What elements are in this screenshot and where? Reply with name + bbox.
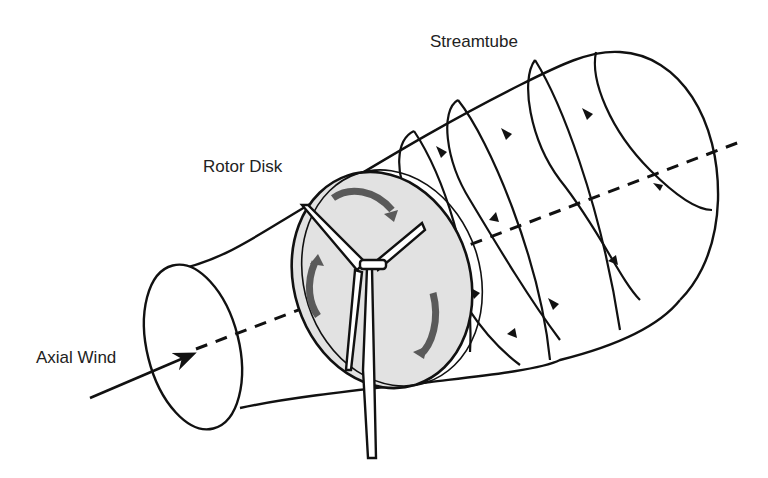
rotor-disk [264, 146, 509, 412]
streamtube-diagram [0, 0, 768, 478]
label-streamtube: Streamtube [430, 32, 518, 52]
label-rotor-disk: Rotor Disk [203, 157, 282, 177]
inlet-ellipse [128, 254, 258, 439]
label-axial-wind: Axial Wind [36, 348, 116, 368]
